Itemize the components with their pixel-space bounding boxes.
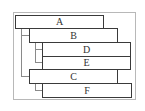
node-b-label: B [70,31,77,41]
node-d-label: D [83,45,90,55]
connector-b-to-d [35,49,42,50]
connector-c-to-f [35,90,42,91]
node-f-label: F [84,86,90,96]
connector-b-trunk [35,42,36,63]
node-c[interactable]: C [29,69,118,84]
node-a-label: A [56,17,63,27]
connector-a-to-c [21,76,29,77]
node-a[interactable]: A [15,15,104,29]
connector-b-to-e [35,62,42,63]
node-e[interactable]: E [42,56,131,70]
node-b[interactable]: B [29,28,118,43]
node-e-label: E [83,58,89,68]
node-f[interactable]: F [42,83,132,98]
node-c-label: C [70,72,77,82]
node-d[interactable]: D [42,42,131,57]
connector-a-to-b [21,35,29,36]
